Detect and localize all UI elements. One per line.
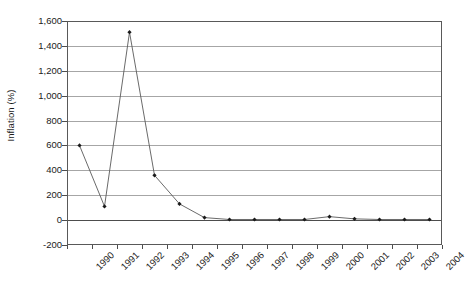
x-axis-tick: [167, 245, 168, 249]
x-axis-tick: [67, 245, 68, 249]
data-point-marker: [252, 217, 256, 221]
x-axis-tick-label: 1997: [269, 250, 291, 272]
x-axis-tick: [442, 245, 443, 249]
y-axis-title-container: Inflation (%): [0, 0, 20, 245]
data-point-marker: [402, 217, 406, 221]
x-axis-tick: [342, 245, 343, 249]
y-axis-tick-label: 0: [18, 215, 62, 225]
x-axis-tick-label: 1990: [94, 250, 116, 272]
data-point-marker: [377, 217, 381, 221]
x-axis-tick: [217, 245, 218, 249]
x-axis-tick-labels: 1990199119921993199419951996199719981999…: [67, 250, 442, 288]
data-point-marker: [127, 30, 131, 34]
x-axis-tick: [192, 245, 193, 249]
y-axis-tick-label: 1,400: [18, 41, 62, 51]
data-series-layer: [67, 21, 442, 245]
x-axis-tick-label: 1992: [144, 250, 166, 272]
data-point-marker: [102, 204, 106, 208]
y-axis-title: Inflation (%): [5, 46, 16, 186]
y-axis-tick-label: 1,600: [18, 16, 62, 26]
y-axis-tick-label: 800: [18, 116, 62, 126]
y-axis-tick-label: 400: [18, 165, 62, 175]
y-axis-tick-label: 200: [18, 190, 62, 200]
x-axis-tick: [292, 245, 293, 249]
x-axis-tick-label: 1991: [119, 250, 141, 272]
x-axis-tick: [317, 245, 318, 249]
x-axis-tick: [267, 245, 268, 249]
x-axis-tick: [392, 245, 393, 249]
data-point-marker: [427, 217, 431, 221]
data-point-marker: [227, 217, 231, 221]
x-axis-tick-label: 1996: [244, 250, 266, 272]
x-axis-tick: [367, 245, 368, 249]
x-axis-tick-label: 1998: [294, 250, 316, 272]
y-axis-tick-label: 1,200: [18, 66, 62, 76]
data-point-marker: [352, 217, 356, 221]
data-point-marker: [202, 216, 206, 220]
x-axis-tick: [242, 245, 243, 249]
data-point-marker: [77, 143, 81, 147]
x-axis-tick: [417, 245, 418, 249]
data-point-marker: [327, 215, 331, 219]
x-axis-tick: [117, 245, 118, 249]
x-axis-tick-label: 2004: [444, 250, 466, 272]
x-axis-tick-label: 1999: [319, 250, 341, 272]
data-point-marker: [277, 217, 281, 221]
x-axis-tick-label: 2003: [419, 250, 441, 272]
x-axis-tick-label: 1995: [219, 250, 241, 272]
y-axis-tick-labels: 1,6001,4001,2001,0008006004002000-200: [18, 0, 62, 288]
x-axis-tick-label: 1993: [169, 250, 191, 272]
data-point-marker: [302, 217, 306, 221]
series-line: [80, 32, 430, 219]
x-axis-tick: [142, 245, 143, 249]
x-axis-tick: [92, 245, 93, 249]
x-axis-tick-label: 2000: [344, 250, 366, 272]
y-axis-tick-label: -200: [18, 240, 62, 250]
y-axis-tick-label: 600: [18, 140, 62, 150]
x-axis-tick-label: 2002: [394, 250, 416, 272]
y-axis-tick-label: 1,000: [18, 91, 62, 101]
x-axis-tick-label: 2001: [369, 250, 391, 272]
x-axis-tick-label: 1994: [194, 250, 216, 272]
